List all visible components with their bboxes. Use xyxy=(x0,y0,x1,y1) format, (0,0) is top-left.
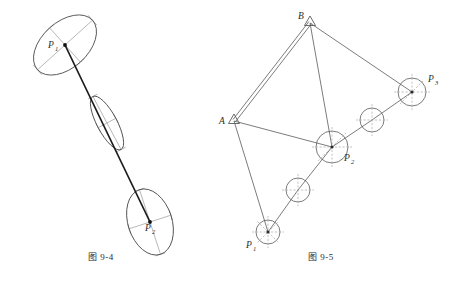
label-p2-sub: 2 xyxy=(152,228,156,235)
ellipse-middle-axes xyxy=(88,94,126,152)
chain-mid1-p2 xyxy=(298,147,332,190)
marker-p3 xyxy=(394,74,430,110)
label-p2-fig95-sub: 2 xyxy=(351,158,355,165)
chain-mid2-p3 xyxy=(372,92,412,120)
marker-mid-1 xyxy=(282,174,314,206)
baseline-a-b xyxy=(233,22,312,122)
label-p3-fig95-sub: 3 xyxy=(434,79,439,86)
label-control-a: A xyxy=(218,116,225,126)
label-p1-sub: 1 xyxy=(55,45,58,52)
label-p2-fig95: P 2 xyxy=(343,153,355,165)
label-p1-fig95-base: P xyxy=(245,240,252,250)
traverse-line-p1-p2 xyxy=(65,45,150,222)
caption-figure-9-4: 图 9-4 xyxy=(88,250,114,263)
line-b-p3 xyxy=(310,23,412,92)
label-p1-fig95-sub: 1 xyxy=(253,245,256,252)
figure-9-4-group: P 1 P 2 xyxy=(22,3,181,261)
label-p2: P 2 xyxy=(144,223,156,235)
line-a-p2 xyxy=(234,121,332,147)
label-p1: P 1 xyxy=(47,40,58,52)
label-p1-fig95: P 1 xyxy=(245,240,256,252)
caption-figure-9-5: 图 9-5 xyxy=(308,250,334,263)
marker-mid-2 xyxy=(356,104,388,136)
line-b-p2 xyxy=(310,23,332,147)
label-p1-base: P xyxy=(47,40,54,50)
line-a-p1 xyxy=(234,121,268,232)
label-control-b: B xyxy=(298,11,304,21)
label-p3-fig95-base: P xyxy=(427,74,434,84)
diagram-canvas: P 1 P 2 xyxy=(0,0,456,291)
label-p3-fig95: P 3 xyxy=(427,74,439,86)
sight-lines xyxy=(234,23,412,232)
figure-9-5-group: A B P 1 P 2 P 3 xyxy=(218,11,439,252)
chain-p2-mid2 xyxy=(332,120,372,147)
marker-p1 xyxy=(252,216,284,248)
chain-p1-mid1 xyxy=(268,190,298,232)
label-p2-base: P xyxy=(144,223,151,233)
point-marker-p1 xyxy=(63,43,67,47)
figure-page: P 1 P 2 xyxy=(0,0,456,291)
traverse-chain xyxy=(268,92,412,232)
label-p2-fig95-base: P xyxy=(343,153,350,163)
